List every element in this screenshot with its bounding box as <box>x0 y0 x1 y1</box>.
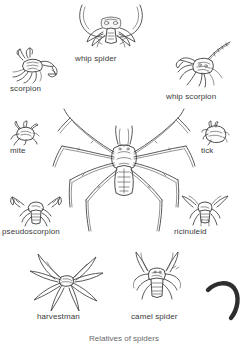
camel-spider-label: camel spider <box>131 313 178 321</box>
mite-icon <box>8 120 42 146</box>
mite-label: mite <box>10 147 26 155</box>
hook-icon <box>204 276 244 326</box>
whip-scorpion-label: whip scorpion <box>166 93 216 101</box>
scorpion-icon <box>8 46 62 84</box>
harvestman-icon <box>24 250 108 312</box>
arachnid-plate: whip spider scorpion <box>0 0 248 343</box>
harvestman-label: harvestman <box>37 313 80 321</box>
central-spider-figure <box>48 104 200 244</box>
whip-scorpion-icon <box>166 40 238 88</box>
tick-figure: tick <box>198 120 232 146</box>
scorpion-label: scorpion <box>10 85 41 93</box>
curved-hook-mark <box>204 276 244 326</box>
camel-spider-figure: camel spider <box>122 250 194 312</box>
whip-spider-label: whip spider <box>75 55 117 63</box>
whip-spider-icon <box>72 2 150 54</box>
tick-label: tick <box>201 147 213 155</box>
whip-spider-figure: whip spider <box>72 2 150 54</box>
mite-figure: mite <box>8 120 42 146</box>
camel-spider-icon <box>122 250 194 312</box>
plate-caption: Relatives of spiders <box>0 334 248 343</box>
harvestman-figure: harvestman <box>24 250 108 312</box>
whip-scorpion-figure: whip scorpion <box>166 40 238 88</box>
central-spider-illustration <box>48 104 200 244</box>
tick-icon <box>198 120 232 146</box>
scorpion-figure: scorpion <box>8 46 62 84</box>
